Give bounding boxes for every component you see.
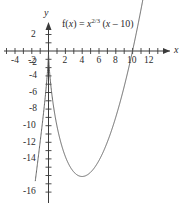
x-tick-label-8: 8 [113,56,118,66]
x-tick-label-12: 12 [144,56,154,66]
y-axis-label: y [44,8,48,18]
equation-factor-rest: – 10) [110,18,133,29]
y-axis-arrow-icon [46,22,52,30]
y-tick-label--6: -6 [29,88,37,98]
function-graph-figure: y x -4 -2 2 4 6 8 10 12 2 -2 -4 -6 -8 -1… [0,0,189,210]
y-tick-label--16: -16 [23,187,36,197]
x-tick-label-2: 2 [63,56,68,66]
x-tick-label-10: 10 [127,56,137,66]
y-tick-label--10: -10 [23,121,36,131]
equation-exponent: 2/3 [92,17,100,24]
y-tick-label--12: -12 [23,138,36,148]
equation-fx: f( [62,18,69,29]
x-axis-arrow-icon [163,48,170,54]
y-tick-label--2: -2 [29,58,37,68]
equation-annotation: f(x) = x2/3 (x – 10) [62,19,134,29]
x-axis-label: x [174,45,178,55]
equation-fx-close: ) = [73,18,87,29]
x-tick-label-4: 4 [80,56,85,66]
y-tick-label--4: -4 [29,71,37,81]
y-tick-label-2: 2 [31,30,36,40]
y-tick-label--8: -8 [29,104,37,114]
x-tick-label--4: -4 [11,56,19,66]
x-tick-label-6: 6 [97,56,102,66]
y-tick-label--14: -14 [23,154,36,164]
